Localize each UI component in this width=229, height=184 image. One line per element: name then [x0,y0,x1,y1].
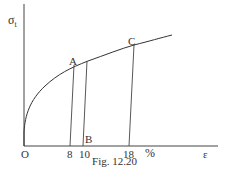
point-C-label: C [128,36,135,47]
point-B-label: B [85,134,92,145]
stress-strain-curve [24,35,172,146]
line-A [70,65,74,146]
y-axis-label: σt [8,15,17,30]
point-A-label: A [69,56,77,67]
figure: σt A C B O 8 10 18 % ε Fig. 12.20 [0,0,229,184]
figure-caption: Fig. 12.20 [0,155,229,167]
line-C [129,45,134,146]
